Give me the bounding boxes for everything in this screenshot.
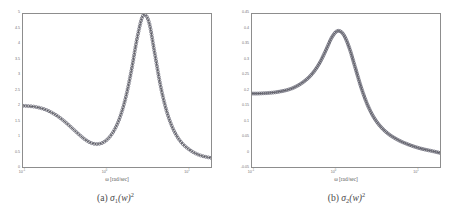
plot-panel-a: 5 4.5 4 3.5 3 2.5 2 1.5 1 0.5 0 10-1 100… bbox=[0, 0, 231, 216]
y-tick-label: 3 bbox=[18, 73, 20, 77]
y-tick-label: 0.35 bbox=[242, 42, 249, 46]
y-tick-label: 3.5 bbox=[15, 58, 20, 62]
x-axis-label-a: ω [rad/sec] bbox=[22, 177, 212, 182]
y-tick-label: 0.15 bbox=[242, 104, 249, 108]
y-tick-label: 0.4 bbox=[244, 27, 249, 31]
x-tick-label: 101 bbox=[413, 170, 418, 175]
x-tick-label: 101 bbox=[184, 170, 189, 175]
x-tick-exponent: 0 bbox=[106, 169, 107, 172]
x-tick-exponent: 1 bbox=[188, 169, 189, 172]
x-tick-exponent: 0 bbox=[335, 169, 336, 172]
caption-prefix: (b) bbox=[328, 192, 339, 203]
caption-argument: (w) bbox=[118, 192, 131, 203]
y-tick-label: 1.5 bbox=[15, 120, 20, 124]
y-axis-ticks-a: 5 4.5 4 3.5 3 2.5 2 1.5 1 0.5 0 bbox=[0, 13, 20, 168]
panel-caption-b: (b) σ2(w)2 bbox=[231, 192, 462, 203]
x-tick-label: 100 bbox=[102, 170, 107, 175]
y-tick-label: 0.2 bbox=[244, 89, 249, 93]
y-tick-label: 2 bbox=[18, 104, 20, 108]
y-tick-label: 0.25 bbox=[242, 73, 249, 77]
x-tick-label: 10-1 bbox=[248, 170, 254, 175]
x-tick-exponent: 1 bbox=[417, 169, 418, 172]
y-tick-label: 2.5 bbox=[15, 89, 20, 93]
plot-svg-b bbox=[252, 14, 440, 167]
y-tick-label: 1 bbox=[18, 135, 20, 139]
y-tick-label: 5 bbox=[18, 11, 20, 15]
x-tick-label: 100 bbox=[331, 170, 336, 175]
y-tick-label: 0.1 bbox=[244, 120, 249, 124]
x-axis-label-b: ω [rad/sec] bbox=[251, 177, 441, 182]
plot-panel-b: 0.45 0.4 0.35 0.3 0.25 0.2 0.15 0.1 0.05… bbox=[231, 0, 462, 216]
caption-prefix: (a) bbox=[97, 192, 108, 203]
y-tick-label: 4.5 bbox=[15, 27, 20, 31]
figure-row: 5 4.5 4 3.5 3 2.5 2 1.5 1 0.5 0 10-1 100… bbox=[0, 0, 463, 216]
y-axis-ticks-b: 0.45 0.4 0.35 0.3 0.25 0.2 0.15 0.1 0.05… bbox=[231, 13, 249, 168]
caption-argument: (w) bbox=[349, 192, 362, 203]
y-tick-label: 4 bbox=[18, 42, 20, 46]
data-curve bbox=[23, 15, 211, 158]
x-tick-exponent: -1 bbox=[23, 169, 25, 172]
panel-caption-a: (a) σ1(w)2 bbox=[0, 192, 231, 203]
caption-subscript: 1 bbox=[115, 197, 118, 204]
y-tick-label: 0.5 bbox=[15, 151, 20, 155]
plot-area-b bbox=[251, 13, 441, 168]
plot-svg-a bbox=[23, 14, 211, 167]
plot-area-a bbox=[22, 13, 212, 168]
caption-superscript: 2 bbox=[131, 191, 134, 198]
y-tick-label: 0 bbox=[247, 151, 249, 155]
caption-subscript: 2 bbox=[346, 197, 349, 204]
x-tick-exponent: -1 bbox=[252, 169, 254, 172]
y-tick-label: 0.3 bbox=[244, 58, 249, 62]
data-curve bbox=[252, 31, 440, 153]
y-tick-label: 0.05 bbox=[242, 135, 249, 139]
caption-superscript: 2 bbox=[362, 191, 365, 198]
y-tick-label: 0.45 bbox=[242, 11, 249, 15]
x-tick-label: 10-1 bbox=[19, 170, 25, 175]
